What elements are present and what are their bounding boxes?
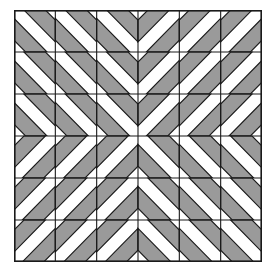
tile-r3-c5 <box>179 94 220 136</box>
tile-r4-c2 <box>55 136 96 178</box>
tile-r6-c2 <box>55 220 96 262</box>
tile-r4-c1 <box>14 136 55 178</box>
tile-r5-c4 <box>138 178 179 220</box>
tile-r1-c5 <box>179 10 220 52</box>
tile-r5-c2 <box>55 178 96 220</box>
tile-r5-c3 <box>97 178 138 220</box>
tile-r4-c5 <box>179 136 220 178</box>
figure-canvas <box>0 0 276 274</box>
tile-r2-c5 <box>179 52 220 94</box>
tile-r2-c2 <box>55 52 96 94</box>
tile-r4-c6 <box>221 136 262 178</box>
tile-r5-c6 <box>221 178 262 220</box>
tile-r3-c6 <box>221 94 262 136</box>
tile-r5-c5 <box>179 178 220 220</box>
quilt-svg <box>14 10 262 262</box>
tile-r4-c3 <box>97 136 138 178</box>
tile-r1-c2 <box>55 10 96 52</box>
tile-r2-c3 <box>97 52 138 94</box>
tile-r2-c6 <box>221 52 262 94</box>
tile-r6-c5 <box>179 220 220 262</box>
tile-r3-c1 <box>14 94 55 136</box>
tile-r6-c4 <box>138 220 179 262</box>
tile-r3-c4 <box>138 94 179 136</box>
tile-r1-c4 <box>138 10 179 52</box>
tile-r2-c4 <box>138 52 179 94</box>
tile-r1-c6 <box>221 10 262 52</box>
quilt-pattern <box>14 10 262 262</box>
tile-r5-c1 <box>14 178 55 220</box>
tile-r4-c4 <box>138 136 179 178</box>
tile-r6-c6 <box>221 220 262 262</box>
tile-r3-c3 <box>97 94 138 136</box>
tile-r6-c3 <box>97 220 138 262</box>
tile-r1-c1 <box>14 10 55 52</box>
tile-r2-c1 <box>14 52 55 94</box>
tile-r6-c1 <box>14 220 55 262</box>
tile-r3-c2 <box>55 94 96 136</box>
tile-r1-c3 <box>97 10 138 52</box>
